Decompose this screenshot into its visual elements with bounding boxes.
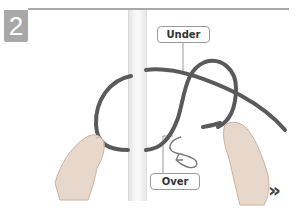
knot-instruction-panel: 2 Under Over » <box>0 0 299 215</box>
rope-crossing-strand <box>146 69 285 130</box>
double-chevron-right-icon[interactable]: » <box>268 180 277 200</box>
right-hand <box>224 122 269 205</box>
over-callout-label: Over <box>150 173 200 190</box>
under-callout-label: Under <box>157 26 210 43</box>
curved-arrow-icon <box>170 137 197 168</box>
left-hand <box>55 135 104 200</box>
